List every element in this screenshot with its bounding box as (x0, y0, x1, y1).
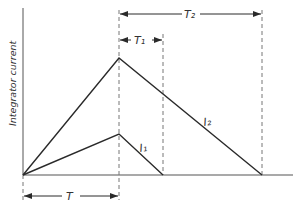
label-T2: T₂ (184, 8, 196, 21)
label-I2: I₂ (203, 115, 213, 129)
label-T1: T₁ (134, 34, 145, 47)
integrator-current-diagram: T₂ T₁ T I₁ I₂ Integrator current (0, 0, 297, 209)
curve-I2 (23, 58, 262, 175)
label-T: T (66, 190, 74, 203)
label-I1: I₁ (139, 141, 148, 155)
y-axis-label: Integrator current (7, 39, 18, 126)
